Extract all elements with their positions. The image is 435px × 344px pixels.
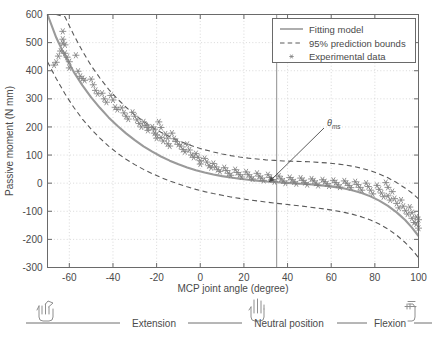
- y-tick-label: 300: [26, 93, 43, 104]
- legend-label-prediction-bounds: 95% prediction bounds: [309, 38, 406, 49]
- x-tick-label: 0: [197, 272, 203, 283]
- x-axis-title: MCP joint angle (degree): [178, 283, 289, 294]
- y-tick-label: 0: [37, 178, 43, 189]
- passive-moment-chart: -60-40-20020406080100-300-200-1000100200…: [0, 0, 435, 344]
- y-tick-label: 600: [26, 9, 43, 20]
- y-axis-title: Passive moment (N mm): [4, 86, 15, 196]
- y-tick-label: 500: [26, 37, 43, 48]
- x-tick-label: -20: [149, 272, 164, 283]
- x-tick-label: 60: [326, 272, 338, 283]
- x-tick-label: -60: [62, 272, 77, 283]
- x-tick-label: -40: [106, 272, 121, 283]
- y-tick-label: 100: [26, 150, 43, 161]
- footer-label-neutral-position: Neutral position: [254, 318, 323, 329]
- y-tick-label: -300: [22, 262, 42, 273]
- y-tick-label: -200: [22, 234, 42, 245]
- y-tick-label: -100: [22, 206, 42, 217]
- x-tick-label: 20: [238, 272, 250, 283]
- x-tick-label: 100: [410, 272, 427, 283]
- chart-legend[interactable]: Fitting model 95% prediction bounds Expe…: [273, 19, 416, 63]
- figure-root: -60-40-20020406080100-300-200-1000100200…: [0, 0, 435, 344]
- footer-label-extension: Extension: [132, 318, 176, 329]
- y-tick-label: 200: [26, 122, 43, 133]
- legend-label-experimental-data: Experimental data: [309, 51, 386, 62]
- legend-label-fitting-model: Fitting model: [309, 24, 363, 35]
- y-tick-label: 400: [26, 65, 43, 76]
- x-tick-label: 80: [369, 272, 381, 283]
- x-tick-label: 40: [282, 272, 294, 283]
- footer-label-flexion: Flexion: [374, 318, 406, 329]
